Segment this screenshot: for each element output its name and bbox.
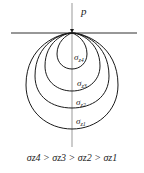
isobar-sz3 [45, 33, 100, 91]
label-sz4: σz4 [74, 52, 84, 63]
label-sz1: σz1 [76, 116, 86, 127]
load-label: p [80, 5, 87, 17]
label-sz2: σz2 [76, 97, 86, 108]
load-arrow-icon [70, 29, 74, 33]
label-sz3: σz3 [77, 78, 87, 89]
stress-order-caption: σz4 > σz3 > σz2 > σz1 [0, 152, 144, 163]
stress-bulb-diagram: p σz4 σz3 σz2 σz1 [0, 0, 144, 173]
